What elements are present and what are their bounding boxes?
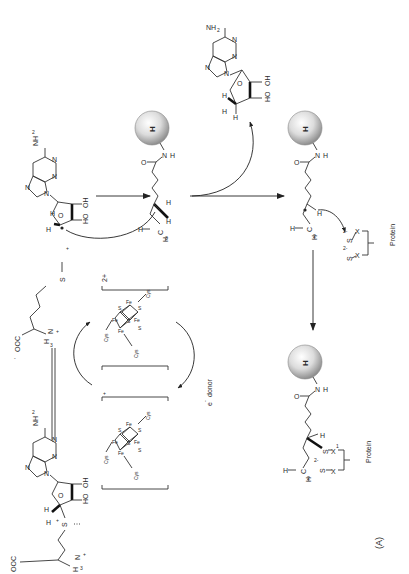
electron-donor-label: e - donor <box>202 378 213 406</box>
dtbr-o: O <box>294 159 300 166</box>
ado-nh2: NH <box>206 24 216 31</box>
dtbr-s-2: S <box>346 256 353 261</box>
sphere-label-2: H <box>301 126 310 132</box>
dtbr-protein-label: Protein <box>389 224 396 246</box>
dtb-h3c-extra-h: H <box>138 226 143 233</box>
met-thiolate: S <box>59 277 66 282</box>
prod-extra-h: H <box>283 467 288 474</box>
dtbr-h-a: H <box>317 210 322 217</box>
ado-h-1: H <box>222 92 227 99</box>
cluster-red-charge: + <box>103 390 106 396</box>
cluster-ox-charge: 2+ <box>101 274 108 282</box>
cluster-red-fe-4: Fe <box>118 450 124 456</box>
radical-n3: N <box>52 173 57 180</box>
sam-n1: N <box>52 436 57 443</box>
sam-ribose: O OH HO <box>50 475 89 505</box>
right-cycle-arrow <box>176 322 194 388</box>
ado-oh-1: OH <box>264 76 271 87</box>
radical-nh2: NH <box>32 136 39 146</box>
fes-cluster-oxidized: 2+ Fe Fe Fe Fe S S S S Cys Cys Cys <box>101 274 168 370</box>
dtb-h-a: H <box>166 199 171 206</box>
cluster-ox-s-3: S <box>127 318 131 324</box>
met-h3n-plus: + <box>56 328 59 334</box>
cluster-red-cys-1: Cys <box>103 455 109 464</box>
met-charge: + <box>66 245 69 251</box>
cluster-ox-fe-2: Fe <box>126 299 132 305</box>
radical-n9: N <box>44 190 49 197</box>
cluster-red-cys-3: Cys <box>133 471 139 480</box>
dtbr-s-1: S <box>346 238 353 243</box>
prod-s-bound: S <box>322 449 329 454</box>
cluster-ox-fe-4: Fe <box>118 328 124 334</box>
cluster-red-s-2: S <box>138 427 142 433</box>
ado-n3: N <box>232 53 237 60</box>
sam-molecule: NH 2 N N N N O OH HO H H + S OOC - <box>10 409 89 573</box>
sam-nh2-label: NH <box>32 416 39 426</box>
dtbr-h2c-sub: 2 <box>313 233 316 239</box>
sam-h3n-sub: 3 <box>80 565 83 571</box>
prod-n: N <box>315 386 320 393</box>
dethiobiotin-radical: H N H O H C H 2 H S 2- X S 2- X Protein <box>288 111 396 261</box>
sam-oh-1: OH <box>82 478 89 489</box>
sam-oh-2: HO <box>82 493 89 504</box>
dtbr-nh-h: H <box>323 152 328 159</box>
radical-ring-o: O <box>58 212 64 219</box>
sam-h-1: H <box>44 506 49 513</box>
equilibrium-arrows <box>52 348 55 440</box>
dtbr-s2-charge: 2- <box>343 245 348 251</box>
sam-n7: N <box>25 464 30 471</box>
cluster-red-s-1: S <box>118 427 122 433</box>
cluster-red-cys-2: Cys <box>145 411 151 420</box>
dtb-o: O <box>141 159 147 166</box>
dethiobiotin-substrate: H N H O H H C H 3 H <box>135 111 175 242</box>
met-h3n-n: N <box>47 329 54 334</box>
dtbr-x-1: X <box>355 228 360 235</box>
sphere-label-3: H <box>301 360 310 366</box>
sam-h3n-label: H <box>72 567 79 572</box>
ado-release-arrow <box>192 122 253 196</box>
radical-n7: N <box>25 184 30 191</box>
cluster-ox-fe-3: Fe <box>134 317 140 323</box>
cluster-red-fe-2: Fe <box>126 421 132 427</box>
ado-ring-o: O <box>237 80 243 87</box>
ado-n9: N <box>224 70 229 77</box>
e-donor-sup: - <box>202 400 208 402</box>
ado-h-2: H <box>222 108 227 115</box>
prod-x-1: X <box>331 448 336 455</box>
sam-ring-o: O <box>58 492 64 499</box>
radical-oh-1: OH <box>82 198 89 209</box>
dtbr-n: N <box>315 152 320 159</box>
deoxyadenosyl-radical: NH 2 N N N N O OH HO H H <box>25 129 89 233</box>
ado-n1: N <box>232 36 237 43</box>
radical-sam-mechanism-diagram: NH 2 N N N N O OH HO H H + S OOC - <box>0 0 409 574</box>
fes-cluster-reduced: + Fe Fe Fe Fe S S S S Cys Cys Cys <box>102 390 168 489</box>
cluster-ox-fe-1: Fe <box>112 317 118 323</box>
prod-nh-h: H <box>323 386 328 393</box>
sam-n9: N <box>44 470 49 477</box>
prod-h-a: H <box>320 432 325 439</box>
prod-s-free: S <box>319 468 326 473</box>
prod-h2c-sub: 2 <box>307 475 310 481</box>
met-ooc-minus: - <box>14 355 16 361</box>
met-h3n-label: H <box>43 339 50 344</box>
prod-protein-label: Protein <box>365 441 372 463</box>
cluster-red-fe-3: Fe <box>134 439 140 445</box>
sam-n3: N <box>52 453 57 460</box>
prod-x1-sup: 1 <box>336 443 339 449</box>
dtbr-s1-charge: 2- <box>343 228 348 234</box>
dtb-h-b: H <box>166 218 171 225</box>
sam-s-plus-charge: + <box>56 517 59 523</box>
radical-h-1: H <box>50 210 55 217</box>
dtb-nh-h: H <box>170 152 175 159</box>
cluster-red-fe-1: Fe <box>112 439 118 445</box>
cluster-ox-cys-3: Cys <box>133 349 139 358</box>
dtbr-extra-h: H <box>290 225 295 232</box>
radical-dot <box>60 226 63 229</box>
prod-s-charge: 2- <box>314 457 319 463</box>
ado-oh-2: HO <box>264 91 271 102</box>
dtb-h3c-c: C <box>157 230 164 235</box>
radical-n1: N <box>52 156 57 163</box>
biotin-protein-intermediate: H N H O H S X 1 C H 2 H S 2- X Protein <box>283 345 372 482</box>
deoxyadenosine: NH 2 N N N N O OH HO H H H <box>205 24 271 121</box>
sam-sulfonium: S <box>61 522 68 527</box>
